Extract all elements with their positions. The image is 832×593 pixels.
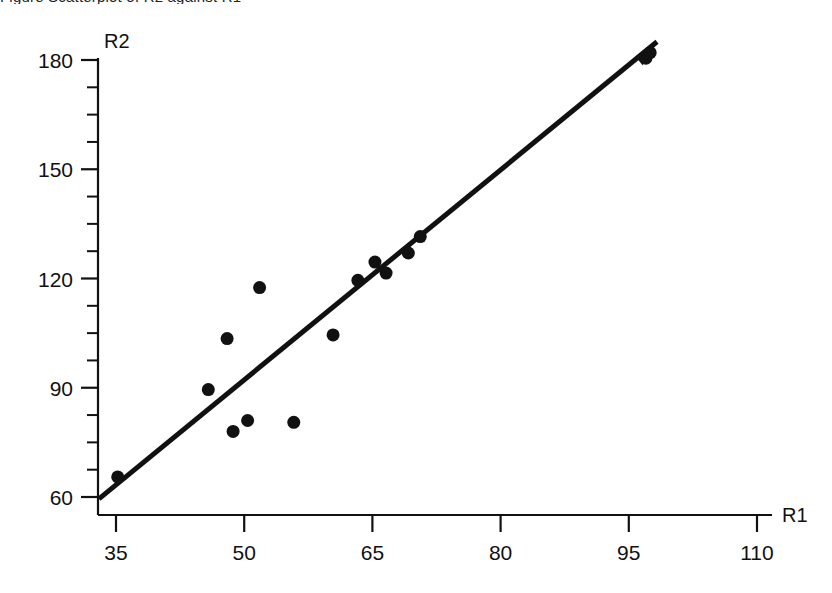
y-tick-label: 120 <box>38 268 73 291</box>
scatter-plot-figure: Figure Scatterplot of R2 against R1 6090… <box>0 0 832 593</box>
y-tick-label: 150 <box>38 158 73 181</box>
data-point <box>351 274 364 287</box>
data-point <box>402 247 415 260</box>
data-point <box>202 383 215 396</box>
axis-name-labels: R2R1 <box>104 30 808 526</box>
x-tick-label: 65 <box>361 541 384 564</box>
data-point <box>327 328 340 341</box>
data-point <box>644 46 657 59</box>
data-point <box>368 256 381 269</box>
plot-canvas: 6090120150180 3550658095110 R2R1 <box>0 0 832 593</box>
data-point <box>414 230 427 243</box>
x-tick-label: 50 <box>233 541 256 564</box>
x-axis-ticks: 3550658095110 <box>104 515 773 564</box>
x-tick-label: 80 <box>489 541 512 564</box>
y-axis-label: R2 <box>104 30 130 52</box>
data-point <box>253 281 266 294</box>
data-point <box>287 416 300 429</box>
data-point <box>241 414 254 427</box>
x-tick-label: 35 <box>104 541 127 564</box>
data-point <box>221 332 234 345</box>
y-tick-label: 180 <box>38 49 73 72</box>
x-axis-label: R1 <box>782 504 808 526</box>
data-point <box>227 425 240 438</box>
y-tick-label: 90 <box>50 377 73 400</box>
data-point <box>111 470 124 483</box>
data-point <box>380 267 393 280</box>
clipped-figure-caption: Figure Scatterplot of R2 against R1 <box>0 0 832 4</box>
x-tick-label: 110 <box>740 541 773 564</box>
axes-group <box>98 58 772 515</box>
y-tick-label: 60 <box>50 486 73 509</box>
trend-line <box>99 42 657 499</box>
regression-line <box>99 42 657 499</box>
y-axis-ticks: 6090120150180 <box>38 49 98 509</box>
x-tick-label: 95 <box>617 541 640 564</box>
